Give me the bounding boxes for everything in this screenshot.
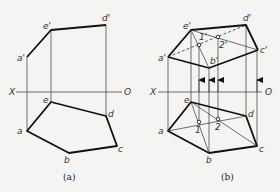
top-view-diagonal-ad: [168, 116, 246, 131]
label-2: 2: [215, 122, 221, 132]
front-view-edge: [27, 25, 106, 57]
top-view-pentagon: [27, 102, 117, 153]
label-e-prime: e': [43, 21, 51, 31]
label-2-prime: 2': [219, 40, 227, 50]
label-a-prime: a': [158, 53, 166, 63]
front-view-top-edge: [168, 25, 258, 57]
label-e: e: [43, 95, 49, 105]
point-2-prime: [216, 35, 220, 39]
label-a: a: [158, 126, 164, 136]
point-1-prime: [197, 43, 201, 47]
label-1-prime: 1': [199, 32, 207, 42]
label-e: e: [184, 95, 190, 105]
label-b: b: [206, 155, 212, 165]
axis-label-o: O: [265, 87, 272, 97]
label-1: 1: [195, 125, 201, 135]
label-d-prime: d': [102, 13, 110, 23]
projection-diagram: X O a' e' d' e d c b a (a) X O: [0, 0, 280, 192]
label-e-prime: e': [183, 21, 191, 31]
point-1: [197, 120, 201, 124]
axis-label-x: X: [8, 87, 16, 97]
figure-b: X O a' e' d' c' b' 1' 2': [149, 13, 272, 182]
label-d: d: [108, 109, 114, 119]
label-d: d: [248, 109, 254, 119]
label-c: c: [259, 144, 264, 154]
figure-a: X O a' e' d' e d c b a (a): [8, 13, 131, 182]
label-a-prime: a': [17, 53, 25, 63]
label-c: c: [118, 144, 123, 154]
caption-a: (a): [63, 172, 75, 182]
label-c-prime: c': [260, 45, 267, 55]
caption-b: (b): [221, 172, 234, 182]
point-2: [216, 117, 220, 121]
label-a: a: [17, 126, 23, 136]
label-b-prime: b': [210, 56, 218, 66]
label-d-prime: d': [243, 13, 251, 23]
axis-label-o: O: [124, 87, 131, 97]
axis-label-x: X: [149, 87, 157, 97]
top-view-pentagon: [168, 102, 257, 153]
label-b: b: [64, 155, 70, 165]
